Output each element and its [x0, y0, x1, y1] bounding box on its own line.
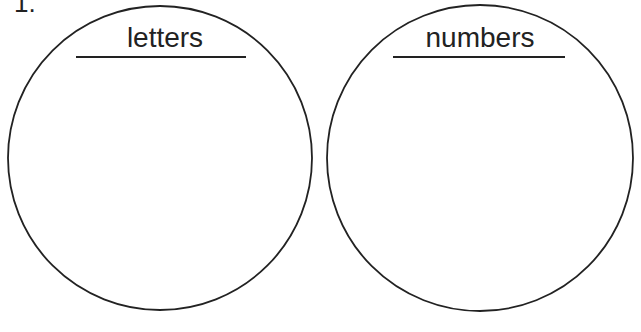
circle-label-letters: letters	[80, 22, 250, 54]
label-underline-numbers	[393, 56, 565, 58]
circle-label-numbers: numbers	[395, 22, 565, 54]
label-underline-letters	[76, 56, 246, 58]
